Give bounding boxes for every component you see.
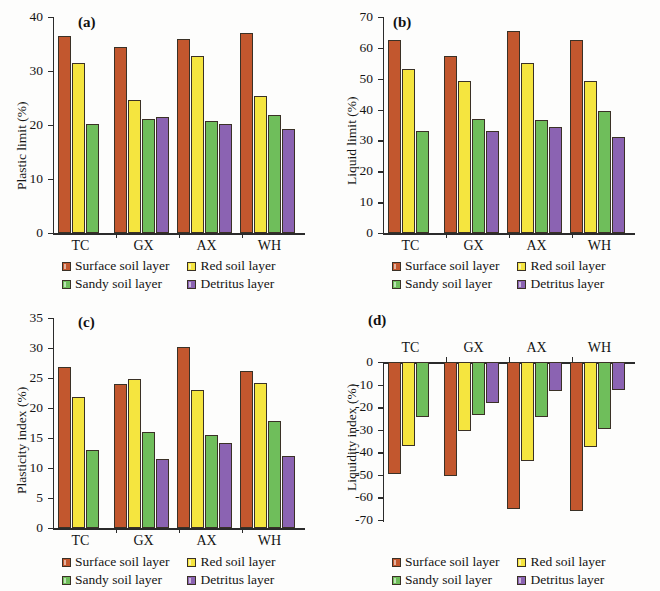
- panel-d-tag: (d): [368, 312, 386, 329]
- panel-a-ytick: [48, 179, 53, 180]
- bar-c-ax-red: [191, 390, 204, 528]
- legend-entry-sandy[interactable]: Sandy soil layer: [392, 276, 499, 292]
- legend-entry-surface[interactable]: Surface soil layer: [392, 258, 499, 274]
- bar-b-ax-red: [521, 63, 534, 233]
- panel-a-category-label-ax: AX: [196, 238, 216, 254]
- bar-a-tc-surface: [58, 36, 71, 233]
- panel-c-ytick-label: 30: [0, 340, 43, 356]
- legend-label-detritus: Detritus layer: [530, 572, 604, 588]
- legend-swatch-surface-icon: [392, 262, 401, 271]
- panel-d-ytick-label: -10: [330, 377, 373, 393]
- legend-entry-sandy[interactable]: Sandy soil layer: [62, 276, 169, 292]
- legend-swatch-sandy-icon: [392, 280, 401, 289]
- legend-entry-detritus[interactable]: Detritus layer: [187, 572, 275, 588]
- panel-c-ytick-label: 35: [0, 310, 43, 326]
- panel-c-ytick-label: 0: [0, 520, 43, 536]
- panel-d: (d) Liquidity index (%) Surface soil lay…: [330, 296, 660, 591]
- legend-entry-red[interactable]: Red soil layer: [187, 258, 275, 274]
- legend-entry-red[interactable]: Red soil layer: [517, 554, 605, 570]
- legend-label-red: Red soil layer: [530, 554, 605, 570]
- bar-d-gx-surface: [444, 362, 457, 476]
- panel-b-category-label-ax: AX: [526, 238, 546, 254]
- panel-c-ytick: [48, 348, 53, 349]
- panel-b-ytick-label: 30: [330, 132, 373, 148]
- legend-entry-detritus[interactable]: Detritus layer: [517, 276, 605, 292]
- bar-d-gx-sandy: [472, 362, 485, 415]
- panel-d-ytick: [378, 407, 383, 408]
- bar-a-wh-surface: [240, 33, 253, 233]
- legend-entry-detritus[interactable]: Detritus layer: [187, 276, 275, 292]
- panel-c-category-label-ax: AX: [196, 533, 216, 549]
- bar-c-ax-surface: [177, 347, 190, 528]
- legend-label-sandy: Sandy soil layer: [75, 276, 162, 292]
- legend-swatch-detritus-icon: [517, 280, 526, 289]
- panel-a-legend: Surface soil layerRed soil layerSandy so…: [62, 258, 275, 292]
- panel-d-legend: Surface soil layerRed soil layerSandy so…: [392, 554, 605, 588]
- panel-b-ytick: [378, 233, 383, 234]
- bar-a-gx-surface: [114, 47, 127, 233]
- panel-c-ytick: [48, 468, 53, 469]
- panel-d-ytick-label: -30: [330, 422, 373, 438]
- panel-d-ytick-label: -20: [330, 399, 373, 415]
- bar-a-ax-red: [191, 56, 204, 233]
- panel-c-ytick: [48, 408, 53, 409]
- legend-entry-sandy[interactable]: Sandy soil layer: [62, 572, 169, 588]
- panel-b-xtick: [509, 233, 510, 238]
- panel-b-xtick: [446, 233, 447, 238]
- bar-d-gx-detritus: [486, 362, 499, 403]
- panel-d-ytick-label: -70: [330, 512, 373, 528]
- panel-b-ytick-label: 20: [330, 163, 373, 179]
- bar-b-wh-surface: [570, 40, 583, 233]
- bar-d-tc-sandy: [416, 362, 429, 417]
- bar-b-wh-red: [584, 81, 597, 233]
- bar-d-ax-surface: [507, 362, 520, 509]
- panel-b-ytick-label: 10: [330, 194, 373, 210]
- legend-entry-red[interactable]: Red soil layer: [517, 258, 605, 274]
- panel-b-ytick: [378, 110, 383, 111]
- panel-d-category-label-wh: WH: [588, 340, 611, 356]
- legend-entry-surface[interactable]: Surface soil layer: [62, 554, 169, 570]
- panel-c-ytick: [48, 498, 53, 499]
- panel-a-ytick: [48, 71, 53, 72]
- panel-c-xtick: [179, 528, 180, 533]
- legend-entry-surface[interactable]: Surface soil layer: [392, 554, 499, 570]
- bar-b-ax-detritus: [549, 127, 562, 233]
- panel-b-legend: Surface soil layerRed soil layerSandy so…: [392, 258, 605, 292]
- legend-swatch-detritus-icon: [187, 576, 196, 585]
- panel-a-ytick-label: 30: [0, 63, 43, 79]
- bar-d-ax-red: [521, 362, 534, 461]
- bar-b-gx-detritus: [486, 131, 499, 233]
- legend-entry-detritus[interactable]: Detritus layer: [517, 572, 605, 588]
- panel-d-ytick: [378, 497, 383, 498]
- panel-d-ytick: [378, 385, 383, 386]
- bar-c-wh-red: [254, 383, 267, 528]
- panel-b-ytick: [378, 79, 383, 80]
- panel-a-ytick: [48, 125, 53, 126]
- bar-d-tc-red: [402, 362, 415, 446]
- bar-d-gx-red: [458, 362, 471, 431]
- panel-a-ytick-label: 20: [0, 117, 43, 133]
- legend-swatch-red-icon: [517, 262, 526, 271]
- panel-c-ytick-label: 25: [0, 370, 43, 386]
- bar-c-gx-red: [128, 379, 141, 528]
- legend-label-detritus: Detritus layer: [530, 276, 604, 292]
- panel-c-category-label-gx: GX: [133, 533, 153, 549]
- panel-c-ytick-label: 15: [0, 430, 43, 446]
- panel-a-ytick: [48, 17, 53, 18]
- panel-b-ytick-label: 0: [330, 225, 373, 241]
- bar-d-wh-sandy: [598, 362, 611, 429]
- legend-entry-sandy[interactable]: Sandy soil layer: [392, 572, 499, 588]
- bar-a-tc-red: [72, 63, 85, 233]
- legend-label-surface: Surface soil layer: [75, 554, 169, 570]
- bar-d-wh-detritus: [612, 362, 625, 390]
- bar-c-ax-detritus: [219, 443, 232, 528]
- panel-b-ytick: [378, 202, 383, 203]
- panel-d-ytick-label: -50: [330, 467, 373, 483]
- panel-b-ytick-label: 60: [330, 40, 373, 56]
- bar-a-gx-detritus: [156, 117, 169, 233]
- bar-b-tc-red: [402, 69, 415, 233]
- panel-a-category-label-gx: GX: [133, 238, 153, 254]
- legend-swatch-red-icon: [187, 558, 196, 567]
- legend-entry-surface[interactable]: Surface soil layer: [62, 258, 169, 274]
- legend-entry-red[interactable]: Red soil layer: [187, 554, 275, 570]
